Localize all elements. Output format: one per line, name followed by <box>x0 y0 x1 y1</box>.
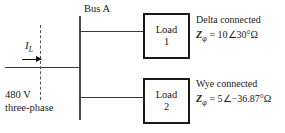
line-current-label: IL <box>25 39 33 55</box>
bus-a-label: Bus A <box>84 2 110 15</box>
load-1-title: Load <box>156 24 178 36</box>
load-1-connection-type: Delta connected <box>196 15 261 26</box>
load-2-number: 2 <box>164 101 169 113</box>
load-2-impedance-subscript: φ <box>202 98 207 107</box>
branch-line-load-1 <box>79 31 144 32</box>
load-box-1: Load 1 <box>143 13 190 59</box>
load-2-impedance: Zφ = 5∠−36.87°Ω <box>196 94 271 108</box>
load-2-impedance-value: = 5∠−36.87°Ω <box>209 93 271 104</box>
source-label: 480 V three-phase <box>5 88 53 114</box>
single-line-diagram: Bus A IL 480 V three-phase Load 1 Load 2… <box>0 0 285 133</box>
load-2-title: Load <box>156 89 178 101</box>
current-direction-arrow-icon <box>22 59 41 60</box>
load-1-description: Delta connected Zφ = 10∠30°Ω <box>196 15 261 43</box>
branch-line-load-2 <box>79 97 144 98</box>
current-subscript: L <box>29 45 33 54</box>
source-feeder-line <box>5 67 80 68</box>
source-voltage: 480 V <box>5 89 31 100</box>
load-1-number: 1 <box>164 36 169 48</box>
load-2-description: Wye connected Zφ = 5∠−36.87°Ω <box>196 79 271 107</box>
load-1-impedance-value: = 10∠30°Ω <box>209 29 258 40</box>
load-1-impedance-subscript: φ <box>202 34 207 43</box>
source-phase: three-phase <box>5 102 53 113</box>
load-2-connection-type: Wye connected <box>196 79 271 90</box>
load-1-impedance: Zφ = 10∠30°Ω <box>196 30 261 44</box>
load-box-2: Load 2 <box>143 78 190 124</box>
